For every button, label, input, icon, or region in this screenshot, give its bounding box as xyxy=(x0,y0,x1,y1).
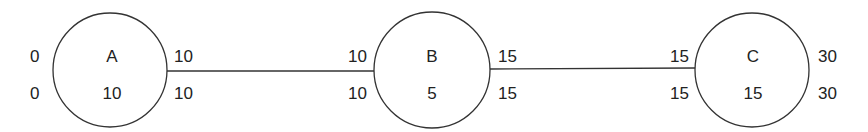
node-c-label: C xyxy=(733,48,773,65)
node-b-late-start: 10 xyxy=(348,85,367,102)
network-diagram-canvas xyxy=(0,0,868,132)
node-b-duration: 5 xyxy=(412,85,452,102)
node-a-circle xyxy=(53,13,167,127)
node-a-label: A xyxy=(92,48,132,65)
node-b-label: B xyxy=(412,48,452,65)
node-a-late-finish: 10 xyxy=(174,85,193,102)
node-c-late-finish: 30 xyxy=(818,85,837,102)
node-a-late-start: 0 xyxy=(30,85,39,102)
node-c-circle xyxy=(695,13,809,127)
node-c-late-start: 15 xyxy=(670,85,689,102)
node-b-early-start: 10 xyxy=(348,48,367,65)
node-c-early-start: 15 xyxy=(670,48,689,65)
node-a-duration: 10 xyxy=(92,85,132,102)
node-a-early-start: 0 xyxy=(30,48,39,65)
edge-b-c xyxy=(490,68,695,69)
node-a-early-finish: 10 xyxy=(174,48,193,65)
node-b-circle xyxy=(374,12,490,128)
node-c-duration: 15 xyxy=(733,85,773,102)
node-b-late-finish: 15 xyxy=(498,85,517,102)
node-c-early-finish: 30 xyxy=(818,48,837,65)
node-b-early-finish: 15 xyxy=(498,48,517,65)
